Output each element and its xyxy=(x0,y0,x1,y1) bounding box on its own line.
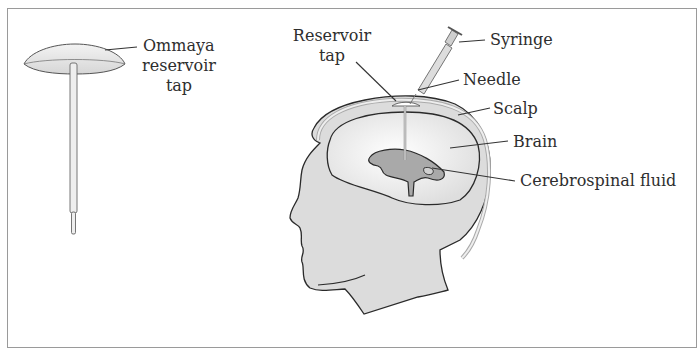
label-ommaya-line3: tap xyxy=(133,77,225,95)
label-scalp: Scalp xyxy=(493,100,538,118)
label-reservoir-tap: Reservoir xyxy=(290,27,374,45)
label-needle: Needle xyxy=(463,71,521,89)
label-cerebrospinal-fluid: Cerebrospinal fluid xyxy=(520,172,676,190)
label-ommaya-line2: reservoir xyxy=(133,57,225,75)
label-syringe: Syringe xyxy=(490,31,553,49)
label-brain: Brain xyxy=(513,133,557,151)
syringe-icon xyxy=(410,27,462,104)
label-reservoir-tap-line2: tap xyxy=(290,47,374,65)
label-ommaya: Ommaya xyxy=(143,37,215,55)
ommaya-device-icon xyxy=(24,44,137,234)
